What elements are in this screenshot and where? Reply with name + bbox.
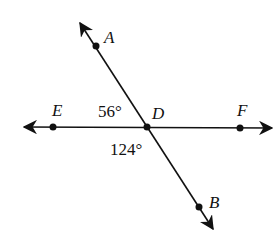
point-E bbox=[50, 124, 57, 131]
point-A bbox=[93, 43, 100, 50]
point-F bbox=[237, 125, 244, 132]
label-D: D bbox=[151, 104, 165, 123]
label-B: B bbox=[209, 193, 220, 212]
intersecting-lines-figure: A B D E F 56° 124° bbox=[0, 0, 278, 246]
angle-label-124: 124° bbox=[110, 140, 142, 159]
label-E: E bbox=[51, 101, 63, 120]
diagram-canvas: A B D E F 56° 124° bbox=[0, 0, 278, 246]
point-D bbox=[144, 124, 151, 131]
label-A: A bbox=[103, 28, 115, 47]
point-B bbox=[196, 204, 203, 211]
angle-label-56: 56° bbox=[98, 102, 122, 121]
label-F: F bbox=[236, 101, 248, 120]
